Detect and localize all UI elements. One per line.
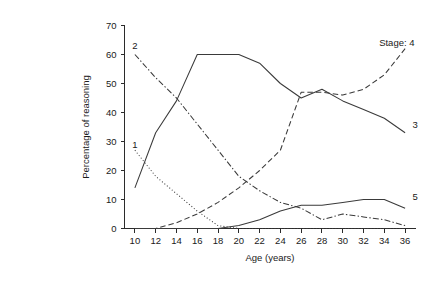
x-axis-ticks: 1012141618202224262830323436 [130,229,411,246]
x-tick-label: 22 [254,235,265,246]
line-chart: 010203040506070 101214161820222426283032… [0,0,436,287]
axes-group [125,26,416,229]
x-tick-label: 10 [130,235,141,246]
y-tick-label: 60 [106,49,117,60]
series-label-1: 1 [132,139,137,150]
chart-container: 010203040506070 101214161820222426283032… [0,0,436,287]
y-axis-ticks: 010203040506070 [106,20,125,234]
x-tick-label: 16 [192,235,203,246]
series-line-5 [135,200,405,229]
series-lines [135,49,405,229]
y-tick-label: 10 [106,194,117,205]
x-tick-label: 20 [234,235,245,246]
y-tick-label: 30 [106,136,117,147]
x-tick-label: 24 [275,235,286,246]
x-tick-label: 12 [150,235,161,246]
series-label-2: 2 [132,40,137,51]
y-tick-label: 0 [111,223,116,234]
series-label-4: Stage: 4 [379,37,414,48]
x-tick-label: 18 [213,235,224,246]
y-tick-label: 40 [106,107,117,118]
x-tick-label: 30 [337,235,348,246]
x-tick-label: 32 [358,235,369,246]
series-line-3 [135,55,405,188]
series-labels: 123Stage: 45 [132,37,417,202]
y-tick-label: 50 [106,78,117,89]
y-axis-title: Percentage of reasoning [80,75,91,179]
x-tick-label: 34 [379,235,390,246]
x-tick-label: 14 [171,235,182,246]
y-tick-label: 70 [106,20,117,31]
series-label-5: 5 [412,191,417,202]
series-line-4 [135,49,405,229]
x-axis-title: Age (years) [245,252,294,263]
series-label-3: 3 [412,119,417,130]
x-tick-label: 28 [317,235,328,246]
y-tick-label: 20 [106,165,117,176]
x-tick-label: 36 [400,235,411,246]
x-tick-label: 26 [296,235,307,246]
